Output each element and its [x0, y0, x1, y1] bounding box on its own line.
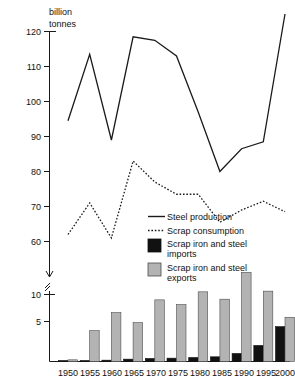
unit-label-line2: tonnes — [49, 19, 77, 29]
bar-exports-1995 — [263, 291, 273, 361]
bar-imports-1950 — [59, 361, 69, 362]
bar-exports-2000 — [285, 317, 295, 361]
xtick-label-1975: 1975 — [168, 368, 188, 378]
bar-exports-1990 — [242, 272, 252, 361]
upper-y-axis: 120 110 100 90 80 70 60 — [26, 27, 56, 262]
chart-svg: 120 110 100 90 80 70 60 billion tonnes 1… — [0, 0, 295, 391]
ytick-label-10: 10 — [31, 290, 41, 300]
bar-exports-1970 — [155, 300, 165, 362]
xtick-label-1995: 1995 — [256, 368, 276, 378]
bar-exports-1980 — [198, 292, 208, 362]
xtick-label-1990: 1990 — [234, 368, 254, 378]
axis-break-marker — [45, 262, 53, 291]
series-line-steel-production — [68, 14, 285, 172]
bar-imports-2000 — [276, 327, 286, 362]
ytick-label-80: 80 — [31, 167, 41, 177]
bar-imports-1960 — [102, 360, 112, 361]
legend-label-exports-line1: Scrap iron and steel — [167, 263, 247, 273]
bar-imports-1970 — [145, 358, 155, 361]
bar-exports-1955 — [90, 331, 100, 362]
bar-imports-1980 — [189, 357, 199, 361]
ytick-label-90: 90 — [31, 132, 41, 142]
chart-legend: Steel production Scrap consumption Scrap… — [148, 212, 247, 283]
ytick-label-100: 100 — [26, 97, 41, 107]
bars-group — [59, 272, 295, 361]
xtick-label-1960: 1960 — [102, 368, 122, 378]
bar-exports-1965 — [133, 323, 143, 362]
x-axis-tick-labels: 1950 1955 1960 1965 1970 1975 1980 1985 … — [58, 368, 295, 378]
legend-label-imports-line2: imports — [167, 249, 197, 259]
legend-label-exports-line2: exports — [167, 273, 197, 283]
ytick-label-60: 60 — [31, 237, 41, 247]
unit-label-line1: billion — [49, 7, 72, 17]
legend-label-steel-production: Steel production — [167, 212, 232, 222]
xtick-label-1970: 1970 — [146, 368, 166, 378]
legend-label-imports-line1: Scrap iron and steel — [167, 239, 247, 249]
xtick-label-1965: 1965 — [124, 368, 144, 378]
ytick-label-5: 5 — [36, 317, 41, 327]
lower-y-axis: 10 5 — [31, 290, 55, 362]
xtick-label-1955: 1955 — [80, 368, 100, 378]
xtick-label-1950: 1950 — [58, 368, 78, 378]
bar-imports-1995 — [254, 345, 263, 361]
legend-label-scrap-consumption: Scrap consumption — [167, 226, 244, 236]
xtick-label-1985: 1985 — [212, 368, 232, 378]
bar-exports-1960 — [111, 313, 121, 362]
chart-figure: 120 110 100 90 80 70 60 billion tonnes 1… — [0, 0, 295, 391]
bar-exports-1975 — [177, 305, 187, 362]
bar-exports-1950 — [68, 360, 78, 362]
bar-imports-1955 — [80, 361, 90, 362]
bar-imports-1975 — [167, 358, 177, 361]
ytick-label-110: 110 — [27, 62, 41, 72]
bar-exports-1985 — [220, 299, 230, 361]
legend-marker-exports — [148, 263, 161, 276]
ytick-label-120: 120 — [26, 27, 41, 37]
xtick-label-2000: 2000 — [275, 368, 295, 378]
bar-imports-1985 — [210, 357, 220, 362]
bar-imports-1990 — [232, 353, 242, 361]
ytick-label-70: 70 — [31, 202, 41, 212]
xtick-label-1980: 1980 — [190, 368, 210, 378]
legend-marker-imports — [148, 239, 161, 252]
bar-imports-1965 — [124, 359, 134, 361]
